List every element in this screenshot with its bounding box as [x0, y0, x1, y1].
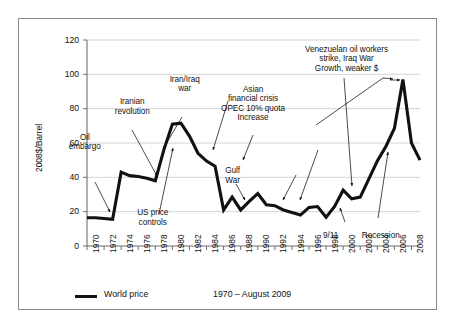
legend-date-range: 1970 – August 2009: [213, 289, 291, 299]
annotation-iranian-revolution: Iranian revolution: [115, 97, 150, 116]
chart-legend: World price 1970 – August 2009: [28, 288, 428, 304]
annotation-asian-financial-crisis: Asian financial crisis OPEC 10% quota In…: [221, 85, 285, 123]
y-tick-label: 120: [55, 35, 79, 45]
x-tick-label: 1996: [313, 234, 323, 253]
y-tick-label: 20: [55, 206, 79, 216]
legend-line-swatch: [75, 295, 97, 298]
x-tick-label: 1978: [159, 234, 169, 253]
x-tick-label: 1972: [108, 234, 118, 253]
y-axis-title: 2008$/Barrel: [34, 124, 44, 172]
x-tick-label: 1974: [125, 234, 135, 253]
y-tick-label: 40: [55, 172, 79, 182]
legend-series-label: World price: [104, 289, 148, 299]
x-tick-label: 1970: [91, 234, 101, 253]
x-tick-label: 1990: [261, 234, 271, 253]
annotation-venezuelan-strike: Venezuelan oil workers strike, Iraq War …: [305, 45, 388, 74]
x-tick-label: 1988: [244, 234, 254, 253]
annotation-us-price-controls: US price controls: [137, 208, 168, 227]
annotation-nine-eleven: 9/11: [323, 231, 338, 241]
annotation-iran-iraq-war: Iran/Iraq war: [170, 75, 200, 94]
annotation-oil-embargo: Oil embargo: [69, 133, 101, 152]
x-tick-label: 1976: [142, 234, 152, 253]
annotation-gulf-war: Gulf War: [225, 166, 240, 185]
x-tick-label: 1982: [193, 234, 203, 253]
x-tick-label: 1984: [210, 234, 220, 253]
figure-root: 2008$/Barrel 120100806040200 19701972197…: [0, 0, 456, 332]
x-tick-label: 1986: [227, 234, 237, 253]
y-tick-label: 100: [55, 69, 79, 79]
annotation-recession: Recession: [362, 231, 400, 241]
y-tick-label: 0: [55, 241, 79, 251]
x-tick-label: 2008: [415, 234, 425, 253]
x-tick-label: 2000: [347, 234, 357, 253]
x-tick-label: 1980: [176, 234, 186, 253]
x-tick-label: 1994: [296, 234, 306, 253]
x-tick-label: 1992: [278, 234, 288, 253]
y-tick-label: 80: [55, 103, 79, 113]
